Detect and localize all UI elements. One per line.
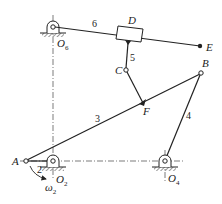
slider-block-d: [116, 26, 143, 45]
joint-a: [24, 159, 28, 163]
label-o2: O2: [56, 173, 68, 188]
ground-pivot-o2: [40, 155, 66, 171]
label-omega2: ω2: [45, 181, 57, 196]
label-link-5: 5: [130, 52, 135, 63]
label-c: C: [115, 64, 123, 76]
label-link-6: 6: [92, 18, 97, 29]
link-c-f: [127, 72, 143, 103]
ground-pivot-o6: [40, 21, 66, 37]
mechanism-diagram: O6 6 D E 5 C B F 3 4 A 2 O2 O4 ω2: [0, 0, 222, 204]
label-link-4: 4: [186, 110, 191, 121]
label-d: D: [127, 14, 136, 26]
link-5: [126, 43, 128, 68]
ground-pivot-o4: [152, 155, 178, 171]
label-link-3: 3: [95, 113, 100, 124]
joint-c: [124, 68, 128, 72]
label-o4: O4: [168, 172, 180, 187]
joint-b: [199, 71, 203, 75]
link-4: [166, 75, 200, 158]
label-e: E: [205, 41, 213, 53]
label-a: A: [11, 155, 19, 167]
joint-e: [198, 44, 202, 48]
label-f: F: [142, 105, 150, 117]
label-link-2: 2: [37, 164, 42, 175]
label-o6: O6: [57, 37, 69, 52]
label-b: B: [202, 57, 209, 69]
